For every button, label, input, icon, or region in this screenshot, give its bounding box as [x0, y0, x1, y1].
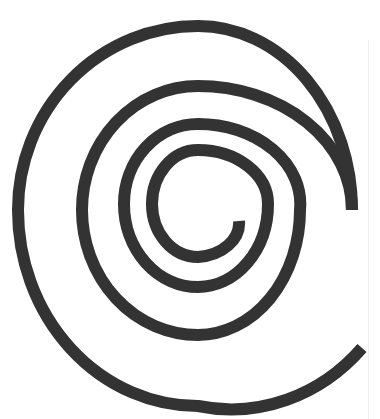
page-edge-line [368, 40, 369, 419]
spiral-canvas [0, 0, 380, 419]
spiral-graphic [0, 0, 380, 419]
spiral-icon [18, 86, 362, 409]
